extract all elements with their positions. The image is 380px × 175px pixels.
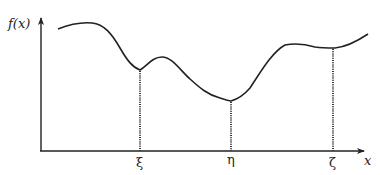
tick-label-eta: η — [227, 152, 235, 167]
tick-label-xi: ξ — [136, 155, 143, 170]
function-curve — [58, 23, 368, 101]
y-axis-label: f(x) — [7, 16, 30, 31]
function-diagram: f(x) x ξ η ζ — [0, 0, 380, 175]
tick-label-zeta: ζ — [329, 155, 336, 170]
x-axis-label: x — [364, 153, 372, 168]
